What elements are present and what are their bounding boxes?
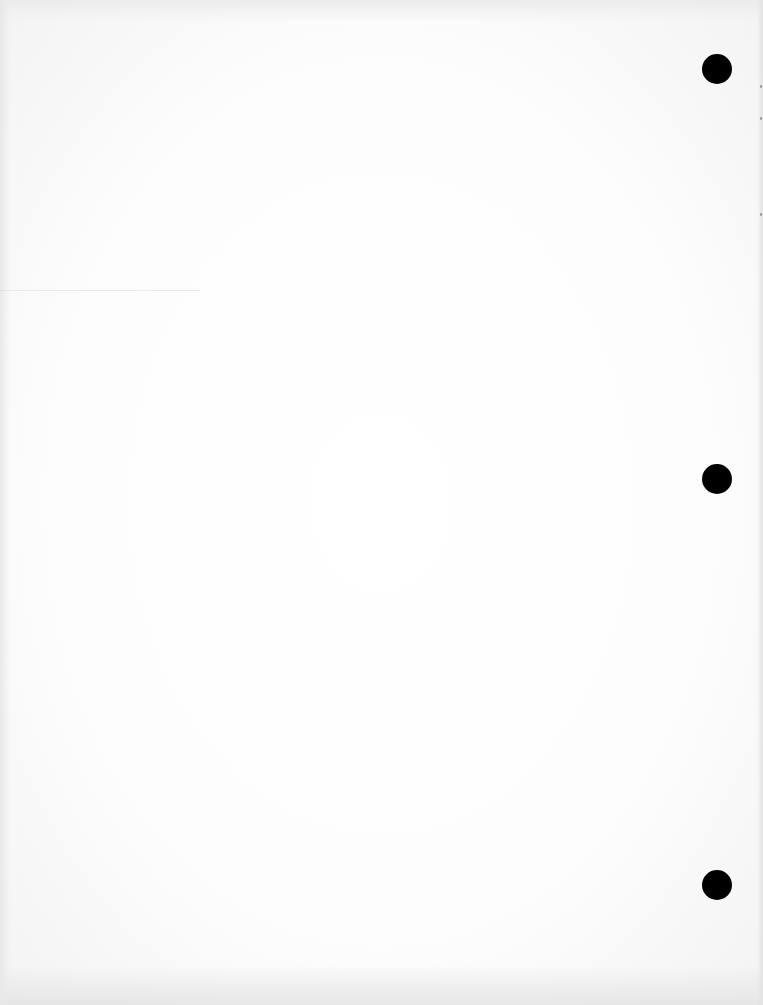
blank-page [0,0,763,1005]
edge-speck [760,117,762,120]
edge-speck [760,213,762,216]
faint-scan-line [0,290,200,291]
punch-hole-top [702,54,732,84]
scan-edge-bottom [0,965,763,1005]
punch-hole-middle [702,464,732,494]
edge-speck [760,85,762,88]
punch-hole-bottom [702,870,732,900]
scan-edge-right [757,0,763,1005]
scan-edge-top [0,0,763,22]
scan-edge-left [0,0,10,1005]
